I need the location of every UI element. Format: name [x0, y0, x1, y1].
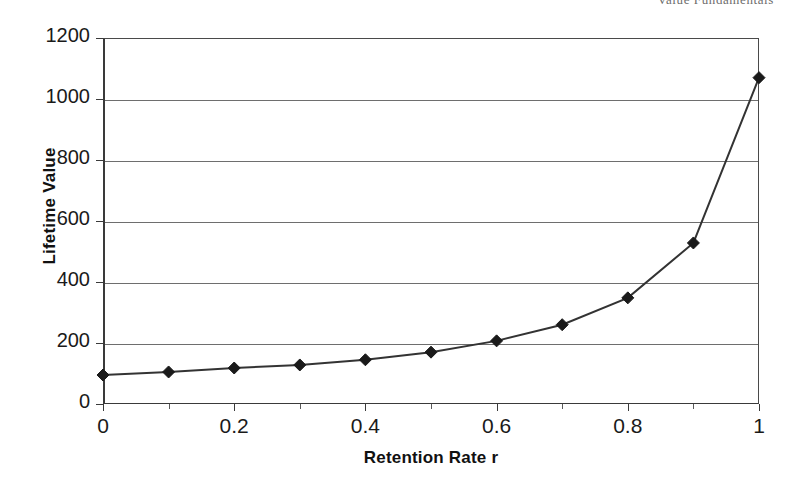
x-tick-label-0: 0	[73, 414, 133, 438]
y-tick-label-200: 200	[18, 330, 90, 350]
x-axis-title: Retention Rate r	[103, 448, 759, 468]
y-tick-label-0: 0	[18, 391, 90, 411]
x-tick-minor-0.1	[169, 404, 170, 409]
x-tick-0	[103, 404, 104, 411]
x-tick-1	[759, 404, 760, 411]
x-tick-label-0.4: 0.4	[335, 414, 395, 438]
gridline-y-1000	[105, 100, 758, 101]
plot-area	[103, 38, 759, 404]
y-tick-label-1200: 1200	[18, 25, 90, 45]
y-tick-400	[96, 282, 103, 283]
x-tick-label-0.8: 0.8	[598, 414, 658, 438]
gridline-y-200	[105, 344, 758, 345]
x-tick-0.2	[234, 404, 235, 411]
gridline-y-400	[105, 283, 758, 284]
y-tick-600	[96, 221, 103, 222]
lifetime-value-chart: 020040060080010001200 00.20.40.60.81 Ret…	[0, 0, 786, 485]
x-tick-0.6	[497, 404, 498, 411]
x-tick-0.8	[628, 404, 629, 411]
x-tick-minor-0.3	[300, 404, 301, 409]
y-tick-1200	[96, 38, 103, 39]
gridline-y-800	[105, 161, 758, 162]
x-tick-label-0.2: 0.2	[204, 414, 264, 438]
x-tick-label-0.6: 0.6	[467, 414, 527, 438]
y-tick-1000	[96, 99, 103, 100]
y-axis-title: Lifetime Value	[40, 86, 60, 326]
x-tick-label-1: 1	[729, 414, 786, 438]
x-tick-minor-0.5	[431, 404, 432, 409]
x-tick-minor-0.7	[562, 404, 563, 409]
x-tick-0.4	[365, 404, 366, 411]
y-tick-0	[96, 404, 103, 405]
y-tick-800	[96, 160, 103, 161]
gridline-y-600	[105, 222, 758, 223]
y-tick-200	[96, 343, 103, 344]
x-tick-minor-0.9	[693, 404, 694, 409]
